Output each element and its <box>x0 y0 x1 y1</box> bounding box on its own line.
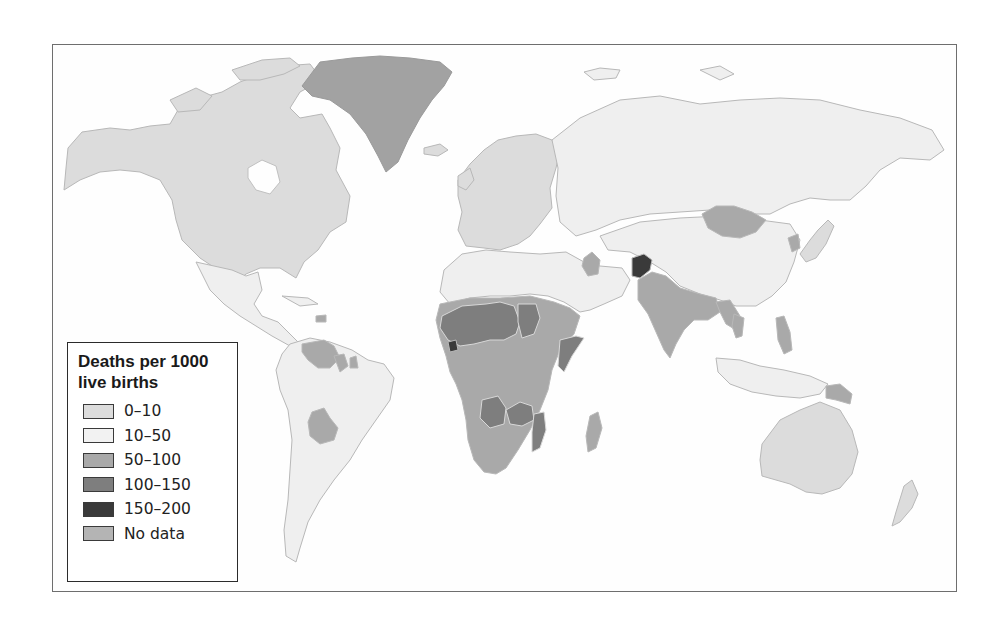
legend-swatch <box>83 502 114 517</box>
region-china <box>600 216 800 306</box>
region-japan <box>800 220 834 262</box>
region-europe <box>458 134 560 250</box>
region-madagascar <box>586 412 602 452</box>
region-somalia <box>558 336 584 372</box>
legend-title-line2: live births <box>78 372 237 393</box>
legend-label: 150–200 <box>124 500 191 518</box>
legend-swatch <box>83 526 114 541</box>
legend: Deaths per 1000 live births 0–10 10–50 5… <box>67 342 238 582</box>
region-haiti <box>316 315 326 322</box>
legend-item: 150–200 <box>78 497 237 522</box>
legend-label: 50–100 <box>124 451 181 469</box>
region-southeast-asia <box>716 358 828 398</box>
region-png <box>826 384 852 404</box>
legend-swatch <box>83 404 114 419</box>
region-central-america <box>196 262 300 346</box>
legend-label: 10–50 <box>124 427 171 445</box>
region-sierra-leone <box>448 340 458 352</box>
legend-swatch <box>83 453 114 468</box>
legend-item: No data <box>78 522 237 547</box>
region-new-zealand <box>892 480 918 526</box>
legend-title: Deaths per 1000 live births <box>78 351 237 393</box>
legend-label: 100–150 <box>124 476 191 494</box>
region-cambodia-laos <box>732 314 744 338</box>
legend-label: No data <box>124 525 185 543</box>
legend-item: 10–50 <box>78 424 237 449</box>
legend-item: 100–150 <box>78 473 237 498</box>
region-south-america <box>276 338 394 562</box>
legend-swatch <box>83 428 114 443</box>
region-australia <box>760 402 858 494</box>
legend-label: 0–10 <box>124 402 161 420</box>
region-mozambique <box>532 412 546 452</box>
legend-item: 50–100 <box>78 448 237 473</box>
region-philippines <box>776 316 792 354</box>
legend-item: 0–10 <box>78 399 237 424</box>
legend-swatch <box>83 477 114 492</box>
legend-title-line1: Deaths per 1000 <box>78 351 237 372</box>
